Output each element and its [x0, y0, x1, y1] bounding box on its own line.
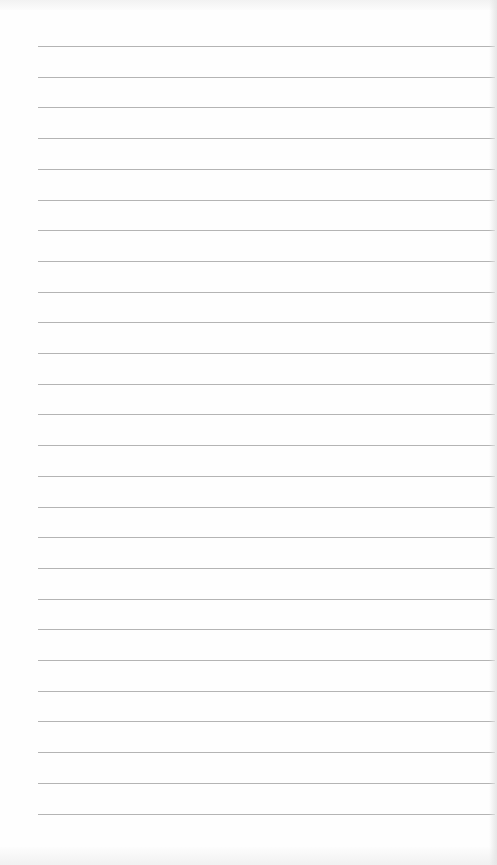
ruled-line — [38, 353, 495, 354]
ruled-line — [38, 169, 495, 170]
ruled-line — [38, 660, 495, 661]
paper-top-edge — [0, 0, 497, 10]
ruled-line — [38, 568, 495, 569]
lined-paper-sheet — [0, 0, 497, 865]
ruled-line — [38, 230, 495, 231]
ruled-line — [38, 384, 495, 385]
paper-bottom-edge — [0, 847, 497, 865]
ruled-line — [38, 507, 495, 508]
ruled-line — [38, 200, 495, 201]
ruled-line — [38, 629, 495, 630]
ruled-line — [38, 691, 495, 692]
ruled-line — [38, 783, 495, 784]
ruled-line — [38, 599, 495, 600]
ruled-line — [38, 322, 495, 323]
ruled-line — [38, 107, 495, 108]
ruled-line — [38, 261, 495, 262]
ruled-line — [38, 138, 495, 139]
ruled-line — [38, 814, 495, 815]
ruled-line — [38, 292, 495, 293]
ruled-line — [38, 445, 495, 446]
ruled-line — [38, 414, 495, 415]
ruled-line — [38, 537, 495, 538]
ruled-line — [38, 752, 495, 753]
ruled-line — [38, 46, 495, 47]
paper-right-shadow — [489, 0, 497, 865]
ruled-line — [38, 721, 495, 722]
ruled-line — [38, 77, 495, 78]
ruled-line — [38, 476, 495, 477]
